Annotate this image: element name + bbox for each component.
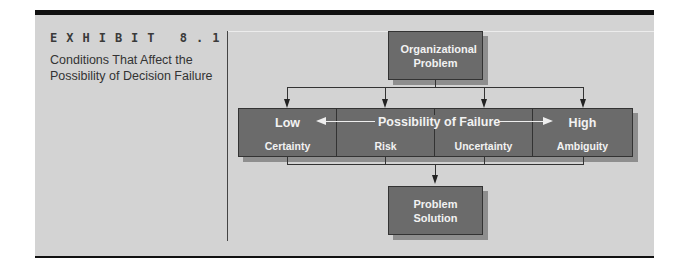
condition-label: Risk <box>337 140 434 152</box>
connector-top-horizontal <box>287 87 584 88</box>
arrow-down-icon <box>382 99 388 108</box>
arrow-down-icon <box>284 99 290 108</box>
connector-drop-4 <box>583 87 584 99</box>
condition-label: Ambiguity <box>533 140 632 152</box>
connector-drop-3 <box>484 87 485 99</box>
arrow-down-icon <box>580 99 586 108</box>
condition-label: Uncertainty <box>435 140 532 152</box>
arrow-right-icon <box>543 117 553 125</box>
bottom-rule <box>35 256 654 258</box>
condition-label: Certainty <box>239 140 336 152</box>
vertical-divider <box>227 31 228 241</box>
arrow-down-icon <box>432 175 438 184</box>
scale-line-left <box>325 121 375 122</box>
scale-line-right <box>498 121 543 122</box>
arrow-down-icon <box>481 99 487 108</box>
top-rule <box>35 10 654 15</box>
organizational-problem-box: Organizational Problem <box>388 31 483 80</box>
exhibit-label: EXHIBIT 8.1 <box>50 31 228 45</box>
connector-drop-1 <box>287 87 288 99</box>
exhibit-title: Conditions That Affect the Possibility o… <box>50 52 225 84</box>
problem-solution-label: Problem Solution <box>406 197 466 225</box>
problem-solution-box: Problem Solution <box>388 186 483 235</box>
possibility-of-failure-label: Possibility of Failure <box>376 115 502 129</box>
connector-drop-2 <box>385 87 386 99</box>
organizational-problem-label: Organizational Problem <box>401 42 471 70</box>
